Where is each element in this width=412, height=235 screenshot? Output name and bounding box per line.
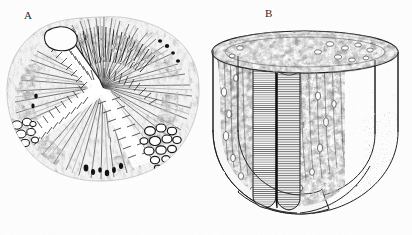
panel-a-illustration (7, 17, 199, 181)
cut-face-left-column (253, 64, 276, 208)
figure-illustration (0, 0, 412, 235)
panel-label-a: A (24, 10, 32, 21)
cleft-slit (276, 70, 277, 208)
histology-figure: A B (0, 0, 412, 235)
panel-label-b: B (265, 8, 273, 19)
cut-face-right-column (277, 68, 300, 210)
